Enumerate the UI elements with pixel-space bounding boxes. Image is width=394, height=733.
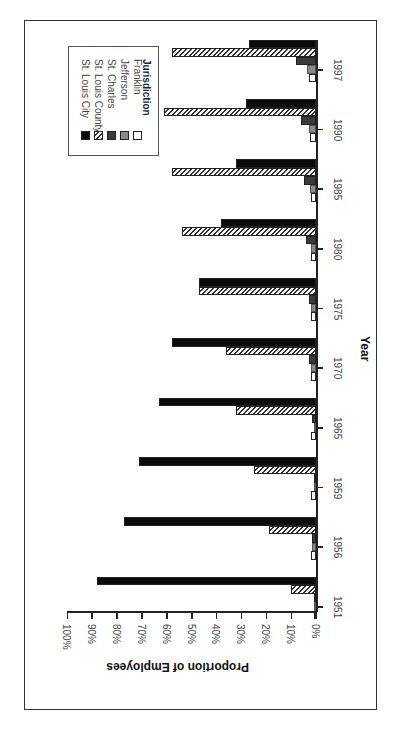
bar-jefferson-1956 — [312, 543, 316, 552]
category-axis-tick — [316, 308, 323, 310]
bar-st-charles-1959 — [314, 474, 316, 483]
bar-jefferson-1965 — [314, 423, 316, 432]
bar-st-louis-city-1980 — [221, 219, 316, 228]
category-axis-tick-label: 1980 — [332, 238, 343, 260]
category-axis-tick — [316, 129, 323, 131]
category-axis-tick-label: 1997 — [332, 59, 343, 81]
value-axis-tick — [191, 611, 193, 619]
value-axis-tick-label: 90% — [86, 624, 97, 644]
bar-franklin-1965 — [311, 432, 316, 441]
value-axis-tick — [291, 611, 293, 619]
bar-st-charles-1990 — [301, 116, 316, 125]
legend-label-jefferson: Jefferson — [119, 59, 130, 100]
value-axis-tick-label: 10% — [285, 624, 296, 644]
legend: Jurisdiction Franklin Jefferson St. Char… — [68, 46, 159, 156]
bar-st-louis-county-1990 — [164, 108, 316, 117]
category-axis-tick — [316, 367, 323, 369]
legend-swatch-st-charles — [107, 131, 116, 140]
bar-st-charles-1965 — [312, 415, 316, 424]
bar-st-louis-county-1959 — [254, 466, 316, 475]
bar-franklin-1997 — [309, 74, 316, 83]
bar-franklin-1985 — [311, 193, 316, 202]
bar-franklin-1975 — [311, 312, 316, 321]
category-axis-tick-label: 1970 — [332, 357, 343, 379]
value-axis-tick — [216, 611, 218, 619]
category-axis-tick — [316, 487, 323, 489]
bar-st-louis-county-1975 — [199, 287, 316, 296]
bar-st-louis-county-1956 — [269, 526, 316, 535]
bar-st-louis-county-1997 — [172, 48, 316, 57]
legend-label-st-charles: St. Charles — [106, 59, 117, 108]
bar-franklin-1951 — [314, 611, 316, 620]
bar-franklin-1970 — [311, 372, 316, 381]
bar-franklin-1959 — [311, 491, 316, 500]
bar-st-louis-county-1970 — [226, 347, 316, 356]
bar-franklin-1956 — [311, 551, 316, 560]
category-axis-tick-label: 1990 — [332, 119, 343, 141]
value-axis-tick-label: 30% — [235, 624, 246, 644]
legend-swatch-franklin — [133, 131, 142, 140]
category-axis-tick-label: 1956 — [332, 536, 343, 558]
bar-st-louis-county-1985 — [172, 168, 316, 177]
category-axis-line — [316, 40, 318, 612]
value-axis-tick — [67, 611, 69, 619]
bar-jefferson-1959 — [314, 483, 316, 492]
value-axis-tick — [166, 611, 168, 619]
bar-st-charles-1951 — [314, 594, 316, 603]
category-axis-tick — [316, 248, 323, 250]
bar-st-louis-county-1951 — [291, 585, 316, 594]
legend-label-st-louis-county: St. Louis County — [93, 59, 104, 132]
value-axis-tick — [116, 611, 118, 619]
legend-swatch-jefferson — [120, 131, 129, 140]
x-axis-title: Year — [358, 336, 372, 361]
bar-st-louis-city-1965 — [159, 398, 316, 407]
value-axis-tick — [141, 611, 143, 619]
bar-jefferson-1990 — [309, 125, 316, 134]
category-axis-tick-label: 1975 — [332, 298, 343, 320]
bar-st-louis-city-1990 — [246, 99, 316, 108]
bar-st-charles-1997 — [296, 57, 316, 66]
value-axis-tick-label: 40% — [210, 624, 221, 644]
bar-st-louis-city-1959 — [139, 457, 316, 466]
category-axis-tick-label: 1951 — [332, 596, 343, 618]
bar-st-louis-city-1956 — [124, 517, 316, 526]
value-axis-tick — [241, 611, 243, 619]
value-axis-tick — [266, 611, 268, 619]
category-axis-tick — [316, 546, 323, 548]
value-axis-tick-label: 80% — [111, 624, 122, 644]
category-axis-tick — [316, 427, 323, 429]
legend-swatch-st-louis-city — [81, 131, 90, 140]
value-axis-tick-label: 20% — [260, 624, 271, 644]
bar-franklin-1980 — [311, 253, 316, 262]
bar-jefferson-1980 — [311, 244, 316, 253]
value-axis-tick-label: 100% — [61, 624, 72, 650]
bar-st-louis-county-1980 — [182, 227, 316, 236]
bar-st-charles-1980 — [306, 236, 316, 245]
category-axis-tick-label: 1965 — [332, 417, 343, 439]
bar-jefferson-1970 — [311, 364, 316, 373]
bar-st-charles-1970 — [309, 355, 316, 364]
category-axis-tick — [316, 188, 323, 190]
bar-st-charles-1956 — [312, 534, 316, 543]
bar-jefferson-1985 — [310, 185, 316, 194]
bar-jefferson-1997 — [307, 65, 316, 74]
bar-st-louis-city-1997 — [249, 40, 316, 49]
bar-st-louis-county-1965 — [236, 406, 316, 415]
bar-st-louis-city-1951 — [97, 577, 316, 586]
value-axis-tick-label: 60% — [161, 624, 172, 644]
value-axis-tick — [91, 611, 93, 619]
category-axis-tick — [316, 69, 323, 71]
legend-label-franklin: Franklin — [132, 59, 143, 95]
bar-st-louis-city-1970 — [172, 338, 316, 347]
bar-franklin-1990 — [310, 133, 316, 142]
bar-st-charles-1985 — [304, 176, 316, 185]
bar-st-louis-city-1985 — [236, 159, 316, 168]
category-axis-tick — [316, 606, 323, 608]
bar-st-charles-1975 — [309, 295, 316, 304]
value-axis-tick-label: 70% — [136, 624, 147, 644]
value-axis-tick-label: 0% — [310, 624, 321, 638]
bar-jefferson-1951 — [314, 602, 316, 611]
bar-jefferson-1975 — [311, 304, 316, 313]
category-axis-tick-label: 1959 — [332, 477, 343, 499]
category-axis-tick-label: 1985 — [332, 178, 343, 200]
